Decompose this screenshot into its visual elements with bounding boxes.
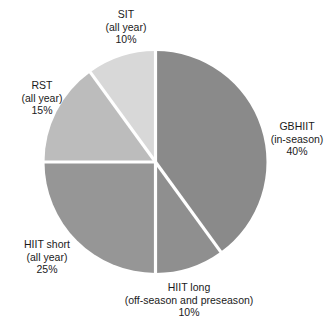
pie-label-gbhiit-name: GBHIIT	[259, 120, 335, 133]
pie-label-sit-sub: (all year)	[83, 21, 169, 34]
pie-label-sit: SIT (all year) 10%	[83, 8, 169, 46]
pie-label-hiit-short-sub: (all year)	[1, 251, 93, 264]
pie-label-hiit-long-name: HIIT long	[106, 281, 272, 294]
pie-label-rst-sub: (all year)	[2, 92, 82, 105]
pie-chart-figure: SIT (all year) 10% RST (all year) 15% GB…	[0, 0, 336, 328]
pie-chart-canvas	[0, 0, 336, 328]
pie-label-rst-percent: 15%	[2, 104, 82, 117]
pie-label-hiit-long: HIIT long (off-season and preseason) 10%	[106, 281, 272, 319]
pie-label-rst: RST (all year) 15%	[2, 79, 82, 117]
pie-label-hiit-long-sub: (off-season and preseason)	[106, 294, 272, 307]
pie-label-hiit-short-name: HIIT short	[1, 238, 93, 251]
pie-label-hiit-long-percent: 10%	[106, 306, 272, 319]
pie-label-sit-percent: 10%	[83, 33, 169, 46]
pie-label-sit-name: SIT	[83, 8, 169, 21]
pie-label-gbhiit-sub: (in-season)	[259, 133, 335, 146]
pie-label-gbhiit-percent: 40%	[259, 145, 335, 158]
pie-label-gbhiit: GBHIIT (in-season) 40%	[259, 120, 335, 158]
pie-label-hiit-short: HIIT short (all year) 25%	[1, 238, 93, 276]
pie-label-rst-name: RST	[2, 79, 82, 92]
pie-label-hiit-short-percent: 25%	[1, 263, 93, 276]
